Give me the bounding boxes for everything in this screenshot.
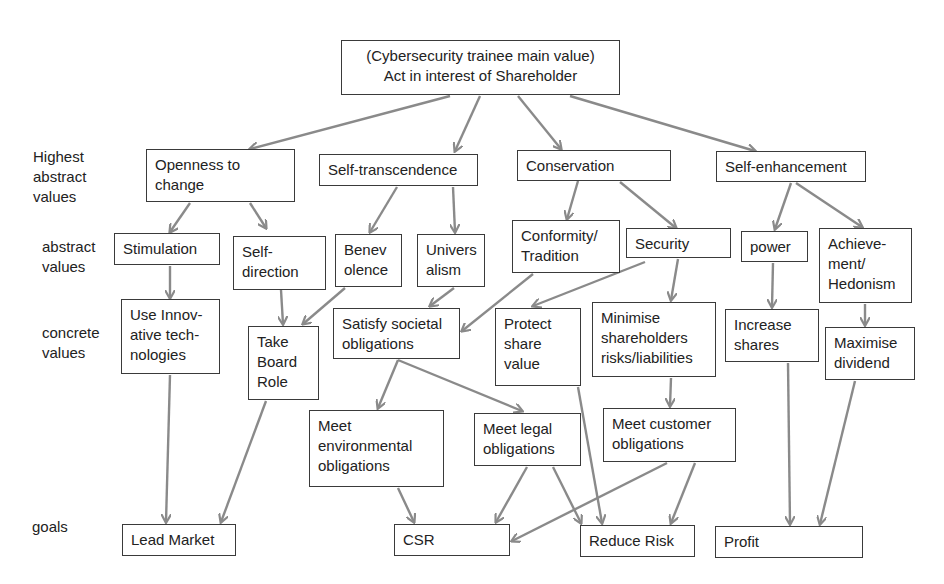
node-self-direction: Self- direction: [233, 236, 326, 290]
arrow-root-to-self-transcendence: [455, 96, 480, 151]
node-max-dividend: Maximise dividend: [825, 327, 915, 380]
node-power: power: [741, 231, 808, 262]
arrow-minimise-risk-to-customer: [670, 378, 671, 406]
node-legal: Meet legal obligations: [474, 413, 581, 466]
node-stimulation: Stimulation: [114, 233, 220, 265]
arrow-board-role-to-lead-market: [221, 401, 266, 522]
node-increase-shares: Increase shares: [725, 309, 819, 362]
arrow-max-dividend-to-profit: [820, 381, 855, 524]
node-self-enhancement: Self-enhancement: [716, 151, 866, 182]
level-label-goals: goals: [32, 517, 68, 537]
arrow-self-transcendence-to-benevolence: [370, 187, 397, 232]
node-board-role: Take Board Role: [248, 326, 319, 400]
arrow-openness-to-self-direction: [250, 203, 266, 228]
arrow-root-to-openness: [250, 96, 450, 149]
arrow-power-to-increase-shares: [772, 263, 773, 307]
node-customer: Meet customer obligations: [603, 408, 736, 462]
arrow-environmental-to-csr: [398, 488, 414, 522]
level-label-abstract: abstract values: [42, 237, 95, 277]
node-lead-market: Lead Market: [122, 524, 236, 556]
node-societal: Satisfy societal obligations: [333, 308, 460, 359]
arrow-security-to-minimise-risk: [671, 259, 678, 300]
arrow-increase-shares-to-profit: [788, 363, 790, 524]
node-minimise-risk: Minimise shareholders risks/liabilities: [592, 302, 716, 377]
level-label-highest: Highest abstract values: [33, 147, 86, 207]
arrow-self-enhancement-to-power: [775, 183, 791, 229]
node-root: (Cybersecurity trainee main value) Act i…: [341, 40, 620, 95]
node-self-transcendence: Self-transcendence: [319, 154, 478, 186]
node-achievement: Achieve- ment/ Hedonism: [819, 228, 912, 303]
value-hierarchy-diagram: Highest abstract valuesabstract valuesco…: [0, 0, 944, 584]
node-openness: Openness to change: [146, 149, 295, 202]
arrow-legal-to-reduce-risk: [553, 467, 581, 523]
arrow-universalism-to-societal: [430, 288, 454, 306]
arrow-conservation-to-security: [620, 182, 676, 228]
arrow-societal-to-environmental: [378, 360, 398, 408]
arrow-conservation-to-conformity: [567, 181, 578, 219]
level-label-concrete: concrete values: [42, 323, 100, 363]
node-environmental: Meet environmental obligations: [309, 410, 444, 487]
node-benevolence: Benev olence: [335, 234, 402, 287]
arrow-self-direction-to-board-role: [281, 290, 283, 324]
arrow-legal-to-csr: [496, 467, 527, 522]
node-csr: CSR: [394, 524, 510, 556]
node-conservation: Conservation: [517, 150, 671, 181]
arrow-innovative-to-lead-market: [166, 375, 170, 522]
node-profit: Profit: [715, 526, 863, 558]
node-reduce-risk: Reduce Risk: [580, 525, 695, 557]
arrow-self-transcendence-to-universalism: [453, 187, 455, 232]
arrow-protect-share-to-reduce-risk: [578, 387, 602, 523]
node-conformity: Conformity/ Tradition: [512, 220, 620, 273]
arrow-self-enhancement-to-achievement: [796, 183, 862, 227]
arrow-root-to-self-enhancement: [570, 96, 755, 151]
node-protect-share: Protect share value: [495, 308, 581, 386]
arrow-openness-to-stimulation: [170, 203, 190, 232]
node-security: Security: [626, 228, 731, 258]
arrow-customer-to-reduce-risk: [671, 463, 695, 523]
arrow-root-to-conservation: [518, 96, 561, 149]
node-universalism: Univers alism: [417, 234, 485, 287]
node-innovative: Use Innov- ative tech- nologies: [121, 299, 220, 374]
